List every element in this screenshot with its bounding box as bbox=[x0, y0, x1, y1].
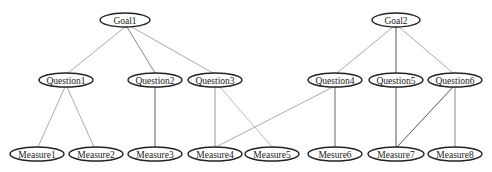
node-label: Question1 bbox=[46, 76, 85, 86]
node-label: Question3 bbox=[195, 76, 234, 86]
node-measure7: Measure7 bbox=[368, 147, 424, 161]
edge-goal2-question4 bbox=[337, 27, 393, 73]
node-label: Goal1 bbox=[113, 16, 136, 26]
edge-question3-measure5 bbox=[220, 87, 272, 147]
node-label: Measure5 bbox=[253, 150, 291, 160]
edge-goal1-question2 bbox=[127, 27, 155, 73]
node-question6: Question6 bbox=[428, 73, 482, 87]
node-label: Question6 bbox=[435, 76, 474, 86]
node-question5: Question5 bbox=[369, 73, 423, 87]
gqm-diagram: Goal1Goal2Question1Question2Question3Que… bbox=[0, 0, 492, 172]
node-label: Question4 bbox=[315, 76, 354, 86]
edge-question1-measure1 bbox=[38, 87, 65, 147]
edge-goal2-question6 bbox=[399, 27, 453, 73]
node-measure4: Measure4 bbox=[188, 147, 242, 161]
node-measure2: Measure2 bbox=[69, 147, 123, 161]
node-label: Question5 bbox=[376, 76, 415, 86]
node-label: Measure1 bbox=[18, 150, 56, 160]
node-goal2: Goal2 bbox=[372, 13, 420, 27]
node-measure5: Measure5 bbox=[245, 147, 299, 161]
node-measure3: Measure3 bbox=[128, 147, 182, 161]
edge-question4-measure4 bbox=[216, 87, 333, 147]
node-label: Measure8 bbox=[436, 150, 474, 160]
node-label: Question2 bbox=[135, 76, 174, 86]
edge-question6-measure7 bbox=[397, 87, 453, 147]
node-label: Measure2 bbox=[77, 150, 115, 160]
node-question1: Question1 bbox=[39, 73, 93, 87]
node-label: Goal2 bbox=[384, 16, 407, 26]
edge-goal1-question3 bbox=[130, 26, 213, 73]
node-label: Measure3 bbox=[136, 150, 174, 160]
node-label: Mesure6 bbox=[318, 150, 351, 160]
node-goal1: Goal1 bbox=[100, 13, 150, 27]
node-label: Measure7 bbox=[377, 150, 415, 160]
node-measure6: Mesure6 bbox=[308, 147, 362, 161]
edge-goal1-question1 bbox=[68, 27, 125, 73]
node-question4: Question4 bbox=[308, 73, 362, 87]
node-measure1: Measure1 bbox=[10, 147, 64, 161]
node-measure8: Measure8 bbox=[428, 147, 482, 161]
edge-question1-measure2 bbox=[67, 87, 94, 147]
nodes-layer: Goal1Goal2Question1Question2Question3Que… bbox=[10, 13, 482, 161]
node-label: Measure4 bbox=[196, 150, 234, 160]
node-question2: Question2 bbox=[128, 73, 182, 87]
node-question3: Question3 bbox=[188, 73, 242, 87]
